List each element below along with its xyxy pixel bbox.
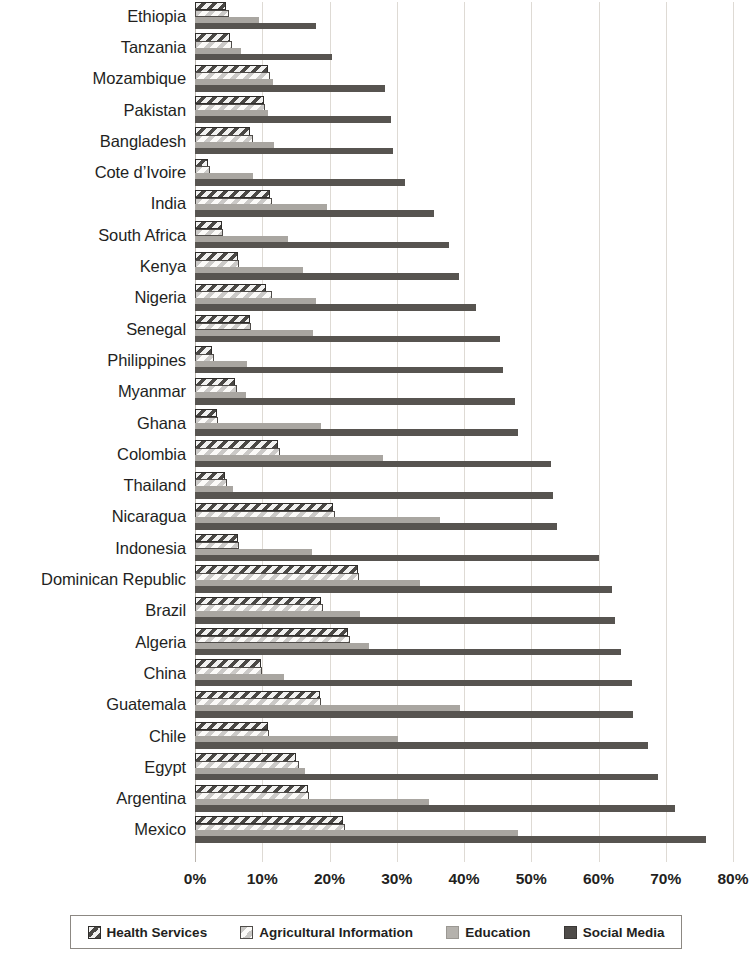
category-label: Philippines (107, 350, 186, 369)
chart-row: Ghana (0, 407, 751, 438)
chart-row: Thailand (0, 470, 751, 501)
category-label: Pakistan (124, 100, 187, 119)
chart-row: India (0, 188, 751, 219)
agri-swatch-icon (240, 926, 253, 939)
bar-social (195, 774, 658, 781)
bar-social (195, 617, 615, 624)
legend-item-label: Education (465, 925, 530, 940)
category-label: Brazil (145, 601, 186, 620)
x-tick-label: 10% (247, 870, 278, 888)
bar-social (195, 210, 434, 217)
category-label: Indonesia (115, 538, 186, 557)
category-label: Cote d’Ivoire (95, 163, 186, 182)
bar-social (195, 85, 385, 92)
bar-social (195, 523, 557, 530)
chart-row: Nigeria (0, 282, 751, 313)
category-label: Colombia (117, 444, 186, 463)
legend-item-social[interactable]: Social Media (564, 925, 665, 940)
category-label: Ghana (137, 413, 186, 432)
bar-social (195, 586, 612, 593)
bar-social (195, 742, 648, 749)
category-label: Mozambique (93, 69, 186, 88)
bar-group (195, 125, 751, 156)
education-swatch-icon (446, 926, 459, 939)
bar-social (195, 304, 476, 311)
chart-row: Bangladesh (0, 125, 751, 156)
bar-social (195, 429, 518, 436)
category-label: Guatemala (106, 695, 186, 714)
chart-row: Mozambique (0, 63, 751, 94)
bar-group (195, 0, 751, 31)
chart-row: Tanzania (0, 31, 751, 62)
bar-group (195, 501, 751, 532)
bar-group (195, 438, 751, 469)
bar-group (195, 250, 751, 281)
legend-item-label: Health Services (107, 925, 208, 940)
category-label: Myanmar (118, 382, 186, 401)
chart-legend: Health ServicesAgricultural InformationE… (70, 915, 682, 949)
chart-row: Chile (0, 720, 751, 751)
bar-group (195, 376, 751, 407)
x-tick-label: 80% (717, 870, 748, 888)
bar-group (195, 344, 751, 375)
social-swatch-icon (564, 926, 577, 939)
bar-group (195, 595, 751, 626)
x-tick-label: 40% (448, 870, 479, 888)
category-label: Bangladesh (100, 131, 186, 150)
bar-social (195, 492, 553, 499)
category-label: Argentina (116, 789, 186, 808)
bar-group (195, 720, 751, 751)
plot-area: EthiopiaTanzaniaMozambiquePakistanBangla… (0, 0, 751, 868)
chart-row: Ethiopia (0, 0, 751, 31)
legend-item-education[interactable]: Education (446, 925, 530, 940)
chart-row: Cote d’Ivoire (0, 157, 751, 188)
legend-item-label: Social Media (583, 925, 665, 940)
bar-social (195, 148, 393, 155)
legend-item-health[interactable]: Health Services (88, 925, 208, 940)
bar-social (195, 23, 316, 30)
bar-group (195, 470, 751, 501)
health-swatch-icon (88, 926, 101, 939)
category-label: Mexico (134, 820, 186, 839)
bar-group (195, 407, 751, 438)
category-label: Algeria (135, 632, 186, 651)
bar-group (195, 188, 751, 219)
bar-group (195, 157, 751, 188)
bar-social (195, 461, 551, 468)
chart-row: Dominican Republic (0, 563, 751, 594)
bar-group (195, 31, 751, 62)
chart-row: Egypt (0, 751, 751, 782)
bar-social (195, 680, 632, 687)
chart-row: Algeria (0, 626, 751, 657)
bar-group (195, 626, 751, 657)
bar-group (195, 783, 751, 814)
chart-row: Mexico (0, 814, 751, 845)
chart-row: Guatemala (0, 689, 751, 720)
chart-row: Indonesia (0, 532, 751, 563)
bar-group (195, 532, 751, 563)
bar-group (195, 814, 751, 845)
bar-social (195, 179, 405, 186)
chart-row: Pakistan (0, 94, 751, 125)
bar-group (195, 657, 751, 688)
bar-social (195, 805, 675, 812)
bar-group (195, 689, 751, 720)
chart-row: Kenya (0, 250, 751, 281)
x-tick-label: 70% (650, 870, 681, 888)
chart-row: Brazil (0, 595, 751, 626)
bar-group (195, 282, 751, 313)
bar-social (195, 836, 706, 843)
chart-row: Argentina (0, 783, 751, 814)
bar-group (195, 63, 751, 94)
x-tick-label: 30% (381, 870, 412, 888)
category-label: Tanzania (121, 37, 186, 56)
chart-row: Philippines (0, 344, 751, 375)
bar-social (195, 367, 503, 374)
legend-item-agri[interactable]: Agricultural Information (240, 925, 413, 940)
category-label: Senegal (126, 319, 186, 338)
category-label: Ethiopia (127, 6, 186, 25)
category-label: India (151, 194, 186, 213)
category-label: South Africa (98, 225, 186, 244)
category-label: Chile (149, 726, 186, 745)
chart-row: Colombia (0, 438, 751, 469)
